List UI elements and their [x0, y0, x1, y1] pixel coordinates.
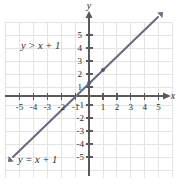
y-axis-arrowhead	[86, 11, 93, 18]
x-axis-label: x	[170, 90, 176, 101]
y-tick-label--1: -1	[77, 100, 85, 110]
y-tick-label-2: 2	[78, 69, 83, 79]
y-tick-label--2: -2	[77, 113, 85, 123]
y-tick-label-1: 1	[78, 82, 83, 92]
line-equation-label: y = x + 1	[17, 154, 57, 165]
y-tick-label--3: -3	[77, 126, 85, 136]
x-tick-label-5: 5	[156, 102, 161, 112]
y-axis-label: y	[86, 0, 92, 11]
point-marker-0-1	[87, 81, 91, 85]
y-tick-label-4: 4	[78, 43, 83, 53]
graph-figure: -5 -4 -3 -2 -1 1 2 3 4 5 5 4 3 2 1 -1 -2…	[0, 0, 180, 184]
x-tick-label--5: -5	[16, 102, 24, 112]
x-tick-label--4: -4	[30, 102, 38, 112]
y-tick-label-3: 3	[78, 56, 83, 66]
coordinate-plane-svg: -5 -4 -3 -2 -1 1 2 3 4 5 5 4 3 2 1 -1 -2…	[0, 0, 180, 184]
x-tick-label-3: 3	[129, 102, 134, 112]
x-tick-label-2: 2	[115, 102, 120, 112]
x-tick-label--3: -3	[44, 102, 52, 112]
inequality-region-label: y > x + 1	[20, 40, 60, 51]
y-tick-label-5: 5	[78, 30, 83, 40]
point-marker-1-2	[101, 68, 105, 72]
y-tick-label--5: -5	[77, 152, 85, 162]
x-tick-label-4: 4	[142, 102, 147, 112]
y-tick-label--4: -4	[77, 139, 85, 149]
x-tick-label-1: 1	[101, 102, 106, 112]
x-tick-label--2: -2	[57, 102, 65, 112]
